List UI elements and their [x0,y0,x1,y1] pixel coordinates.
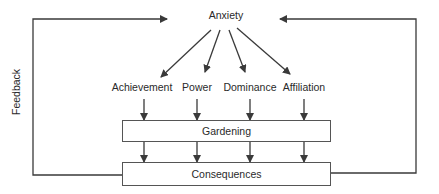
gardening-label: Gardening [202,125,251,137]
arrow-anxiety-achievement [161,30,211,77]
feedback-label: Feedback [10,71,22,115]
node-dominance: Dominance [223,82,276,93]
node-affiliation: Affiliation [283,82,325,93]
feedback-loop-right [280,19,416,173]
node-anxiety: Anxiety [209,10,243,21]
arrow-anxiety-affiliation [237,28,290,74]
node-consequences: Consequences [122,162,331,186]
feedback-loop-left [33,19,167,175]
node-power: Power [182,82,212,93]
arrow-anxiety-dominance [229,30,245,72]
arrow-anxiety-power [205,30,220,72]
node-achievement: Achievement [112,82,173,93]
node-gardening: Gardening [122,120,331,142]
consequences-label: Consequences [191,168,261,180]
